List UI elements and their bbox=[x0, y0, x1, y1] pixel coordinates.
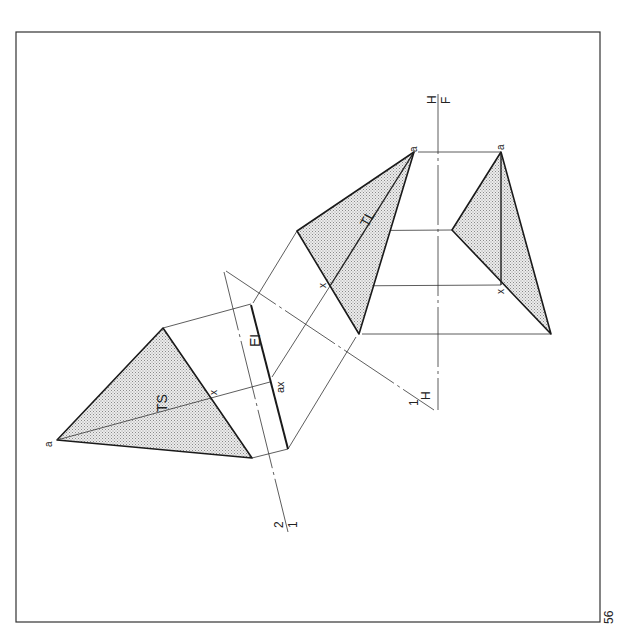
label-ax: ax bbox=[274, 381, 286, 393]
label-ref-hf-f: F bbox=[439, 97, 453, 104]
label-ts: TS bbox=[154, 394, 170, 412]
true-shape-triangle bbox=[57, 328, 252, 458]
label-ref-2: 2 bbox=[272, 521, 286, 528]
page-number: 56 bbox=[602, 610, 616, 624]
label-mid-x: x bbox=[317, 283, 328, 288]
label-ref-1: 1 bbox=[286, 521, 300, 528]
label-right-apex: a bbox=[495, 144, 506, 150]
projection-line bbox=[211, 382, 270, 398]
page-frame bbox=[16, 32, 600, 622]
label-ts-apex: a bbox=[43, 441, 54, 447]
edge-view-line bbox=[251, 305, 288, 449]
descriptive-geometry-drawing: a TS x EI ax TL a x a x 2 1 1 H H F 56 bbox=[0, 0, 617, 630]
projection-line bbox=[252, 449, 288, 458]
label-edge-ei: EI bbox=[247, 334, 263, 347]
projection-line bbox=[253, 231, 297, 303]
label-ts-x: x bbox=[208, 390, 219, 395]
projection-line bbox=[272, 286, 330, 377]
label-right-x: x bbox=[495, 289, 506, 294]
projection-line bbox=[288, 337, 356, 449]
label-ref-1h-h: H bbox=[419, 391, 433, 400]
reference-line-2-1 bbox=[224, 272, 288, 532]
label-ref-hf-h: H bbox=[425, 95, 439, 104]
projection-line bbox=[163, 304, 251, 328]
label-mid-apex: a bbox=[408, 146, 419, 152]
